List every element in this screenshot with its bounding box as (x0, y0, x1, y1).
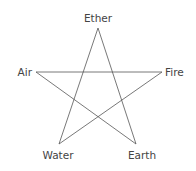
edge-earth-air (36, 72, 136, 144)
label-water: Water (42, 149, 74, 161)
node-labels: Ether Fire Earth Water Air (18, 12, 184, 161)
label-fire: Fire (165, 66, 184, 78)
edge-water-ether (59, 28, 98, 144)
label-earth: Earth (128, 149, 156, 161)
pentagram-diagram: Ether Fire Earth Water Air (0, 0, 196, 171)
edge-fire-water (59, 72, 162, 144)
edge-ether-earth (98, 28, 136, 144)
label-ether: Ether (84, 12, 113, 24)
pentagram-edges (36, 28, 162, 144)
label-air: Air (18, 66, 33, 78)
